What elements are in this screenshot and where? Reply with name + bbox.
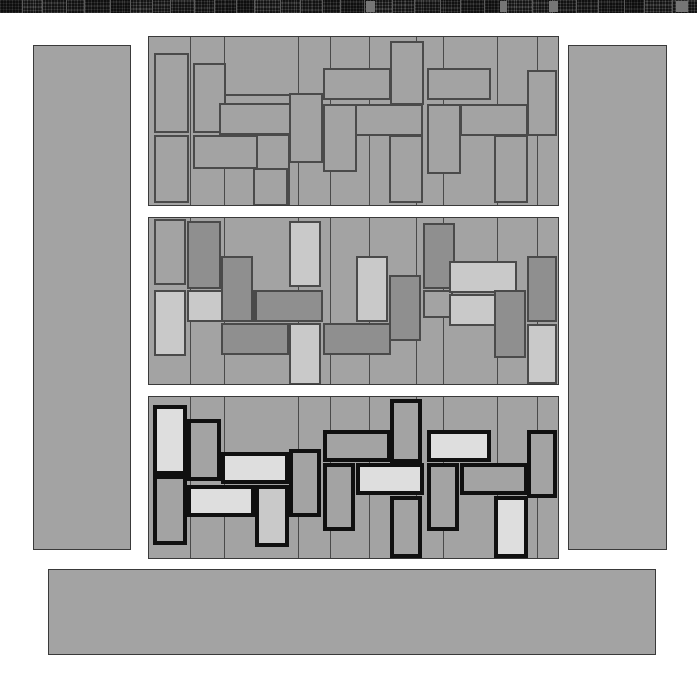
filmstrip-separator <box>130 0 131 13</box>
filmstrip-thumbnail[interactable] <box>644 0 672 13</box>
thumbnail-noise <box>130 0 152 13</box>
panel-brick-layout-outline <box>148 36 559 206</box>
panel-tile[interactable] <box>355 104 423 136</box>
panel-tile[interactable] <box>527 430 557 498</box>
filmstrip-thumbnail[interactable] <box>130 0 152 13</box>
panel-tile[interactable] <box>153 405 187 475</box>
filmstrip-separator <box>364 0 365 13</box>
filmstrip-separator <box>392 0 393 13</box>
filmstrip-thumbnail[interactable] <box>300 0 322 13</box>
filmstrip-separator <box>254 0 255 13</box>
panel-tile[interactable] <box>221 256 253 322</box>
thumbnail-noise <box>66 0 84 13</box>
thumbnail-noise <box>152 0 170 13</box>
panel-tile[interactable] <box>323 104 357 172</box>
panel-tile[interactable] <box>323 430 391 462</box>
filmstrip-separator <box>672 0 673 13</box>
panel-tile[interactable] <box>427 430 491 462</box>
panel-tile[interactable] <box>389 275 421 341</box>
panel-tile[interactable] <box>356 463 424 495</box>
panel-tile[interactable] <box>427 104 461 174</box>
filmstrip-thumbnail[interactable] <box>66 0 84 13</box>
filmstrip-separator <box>460 0 461 13</box>
filmstrip-thumbnail[interactable] <box>22 0 42 13</box>
panel-tile[interactable] <box>187 419 221 481</box>
filmstrip-thumbnail[interactable] <box>440 0 460 13</box>
panel-tile[interactable] <box>494 290 526 358</box>
filmstrip-thumbnail[interactable] <box>506 0 532 13</box>
filmstrip-thumbnail[interactable] <box>236 0 254 13</box>
filmstrip-thumbnail[interactable] <box>322 0 340 13</box>
panel-tile[interactable] <box>153 475 187 545</box>
filmstrip-thumbnail[interactable] <box>214 0 236 13</box>
left-sidebar-block <box>33 45 131 550</box>
panel-tile[interactable] <box>427 463 459 531</box>
filmstrip-thumbnail[interactable] <box>152 0 170 13</box>
thumbnail-noise <box>254 0 280 13</box>
thumbnail-noise <box>598 0 624 13</box>
panel-tile[interactable] <box>154 290 186 356</box>
filmstrip-thumbnail[interactable] <box>624 0 644 13</box>
panel-tile[interactable] <box>389 135 423 203</box>
panel-tile[interactable] <box>460 463 528 495</box>
filmstrip-thumbnail[interactable] <box>460 0 484 13</box>
filmstrip-thumbnail[interactable] <box>0 0 22 13</box>
filmstrip-thumbnail[interactable] <box>110 0 130 13</box>
filmstrip-separator <box>576 0 577 13</box>
filmstrip-separator <box>300 0 301 13</box>
filmstrip-separator <box>66 0 67 13</box>
panel-tile[interactable] <box>154 135 189 203</box>
panel-tile[interactable] <box>221 452 289 484</box>
panel-tile[interactable] <box>390 41 424 105</box>
panel-tile[interactable] <box>527 256 557 322</box>
panel-tile[interactable] <box>494 135 528 203</box>
thumbnail-filmstrip[interactable] <box>0 0 697 13</box>
panel-tile[interactable] <box>323 68 391 100</box>
panel-tile[interactable] <box>289 93 323 163</box>
panel-tile[interactable] <box>255 290 323 322</box>
panel-tile[interactable] <box>427 68 491 100</box>
thumbnail-noise <box>576 0 598 13</box>
panel-tile[interactable] <box>494 496 528 558</box>
panel-tile[interactable] <box>187 221 221 289</box>
thumbnail-noise <box>280 0 300 13</box>
panel-tile[interactable] <box>323 463 355 531</box>
panel-tile[interactable] <box>323 323 391 355</box>
filmstrip-thumbnail[interactable] <box>42 0 66 13</box>
panel-tile[interactable] <box>527 70 557 136</box>
panel-tile[interactable] <box>289 221 321 287</box>
filmstrip-thumbnail[interactable] <box>194 0 214 13</box>
panel-tile[interactable] <box>154 53 189 133</box>
panel-tile[interactable] <box>527 324 557 384</box>
filmstrip-separator <box>598 0 599 13</box>
panel-tile[interactable] <box>390 496 422 558</box>
panel-tile[interactable] <box>221 323 289 355</box>
filmstrip-thumbnail[interactable] <box>392 0 414 13</box>
filmstrip-thumbnail[interactable] <box>414 0 440 13</box>
panel-tile[interactable] <box>187 485 255 517</box>
filmstrip-thumbnail[interactable] <box>576 0 598 13</box>
thumbnail-noise <box>42 0 66 13</box>
panel-tile[interactable] <box>289 323 321 385</box>
panel-tile[interactable] <box>154 219 186 285</box>
filmstrip-thumbnail[interactable] <box>254 0 280 13</box>
thumbnail-noise <box>322 0 340 13</box>
panel-tile[interactable] <box>255 485 289 547</box>
filmstrip-thumbnail[interactable] <box>340 0 364 13</box>
panel-tile[interactable] <box>219 103 291 135</box>
panel-tile[interactable] <box>193 135 259 169</box>
filmstrip-separator <box>322 0 323 13</box>
filmstrip-separator <box>84 0 85 13</box>
filmstrip-thumbnail[interactable] <box>84 0 110 13</box>
filmstrip-thumbnail[interactable] <box>170 0 194 13</box>
panel-tile[interactable] <box>253 168 288 206</box>
filmstrip-thumbnail[interactable] <box>280 0 300 13</box>
panel-tile[interactable] <box>449 261 517 293</box>
filmstrip-thumbnail[interactable] <box>598 0 624 13</box>
filmstrip-separator <box>414 0 415 13</box>
panel-tile[interactable] <box>390 399 422 463</box>
filmstrip-separator <box>22 0 23 13</box>
panel-tile[interactable] <box>356 256 388 322</box>
panel-tile[interactable] <box>289 449 321 517</box>
panel-tile[interactable] <box>460 104 528 136</box>
